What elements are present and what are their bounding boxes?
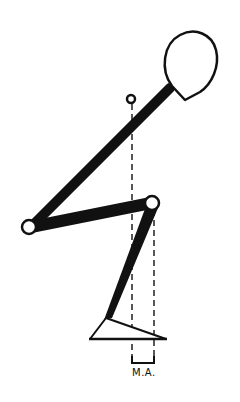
stick-figure-diagram xyxy=(0,0,240,402)
moment-arm-label: M.A. xyxy=(132,367,156,378)
center-of-mass-marker xyxy=(127,95,135,103)
knee-joint xyxy=(145,196,159,210)
diagram-stage: M.A. xyxy=(0,0,240,402)
moment-arm-bracket xyxy=(132,356,154,363)
shank-segment xyxy=(104,206,158,320)
hip-joint xyxy=(22,220,36,234)
